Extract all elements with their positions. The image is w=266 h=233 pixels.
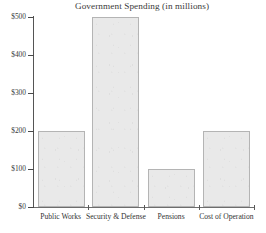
chart-title: Government Spending (in millions) [0, 1, 266, 11]
y-axis-tick [28, 93, 34, 94]
y-axis-tick-label: $100 [0, 164, 26, 173]
y-axis-tick-label: $0 [0, 202, 26, 211]
x-axis-tick-label: Security & Defense [86, 212, 146, 221]
y-axis-tick-label: $400 [0, 50, 26, 59]
x-axis-tick [199, 205, 200, 210]
y-axis-tick [28, 17, 34, 18]
bar [203, 131, 250, 207]
bar [38, 131, 85, 207]
y-axis-tick [28, 169, 34, 170]
y-axis-tick-label: $300 [0, 88, 26, 97]
y-axis-tick-label: $200 [0, 126, 26, 135]
y-axis-tick-label: $500 [0, 12, 26, 21]
bar [92, 17, 139, 207]
x-axis-tick-label: Public Works [40, 212, 81, 221]
x-axis-tick [144, 205, 145, 210]
x-axis-tick-label: Cost of Operation [199, 212, 253, 221]
x-axis-tick-label: Pensions [158, 212, 185, 221]
bar [148, 169, 195, 207]
y-axis-line [33, 16, 34, 208]
x-axis-tick [88, 205, 89, 210]
y-axis-tick [28, 207, 34, 208]
y-axis-tick [28, 131, 34, 132]
bar-chart-figure: Government Spending (in millions) $500$4… [0, 0, 266, 233]
x-axis-tick [254, 205, 255, 210]
y-axis-tick [28, 55, 34, 56]
